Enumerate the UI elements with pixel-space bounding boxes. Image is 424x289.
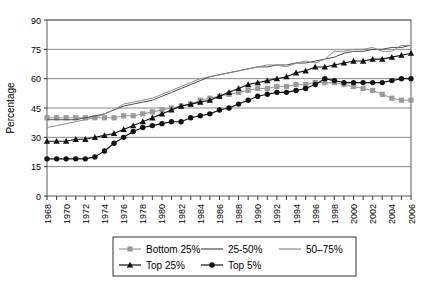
tick-label-x: 1968 bbox=[43, 204, 53, 224]
series-marker bbox=[44, 156, 49, 161]
series-marker bbox=[370, 88, 375, 93]
legend-marker bbox=[209, 262, 214, 267]
tick-label-x: 1980 bbox=[157, 204, 167, 224]
series-marker bbox=[265, 86, 270, 91]
series-marker bbox=[217, 107, 222, 112]
legend-label: Top 5% bbox=[228, 260, 261, 271]
tick-label-y: 30 bbox=[31, 133, 41, 143]
series-marker bbox=[322, 76, 327, 81]
tick-label-y: 15 bbox=[31, 162, 41, 172]
series-marker bbox=[408, 98, 413, 103]
series-marker bbox=[303, 86, 308, 91]
series-marker bbox=[332, 78, 337, 83]
series-marker bbox=[246, 88, 251, 93]
legend-marker bbox=[127, 246, 132, 251]
tick-label-x: 1986 bbox=[215, 204, 225, 224]
series-marker bbox=[121, 135, 126, 140]
series-marker bbox=[131, 113, 136, 118]
series-marker bbox=[102, 148, 107, 153]
chart-figure: 0153045607590Percentage19681970197219741… bbox=[0, 0, 424, 289]
series-marker bbox=[313, 82, 318, 87]
series-marker bbox=[207, 111, 212, 116]
series-marker bbox=[131, 129, 136, 134]
series-marker bbox=[63, 156, 68, 161]
series-marker bbox=[140, 125, 145, 130]
series-marker bbox=[274, 84, 279, 89]
tick-label-y: 60 bbox=[31, 74, 41, 84]
series-marker bbox=[351, 80, 356, 85]
tick-label-y: 0 bbox=[36, 192, 41, 202]
legend-label: 50–75% bbox=[306, 244, 343, 255]
series-marker bbox=[111, 115, 116, 120]
legend-label: Top 25% bbox=[146, 260, 185, 271]
series-marker bbox=[178, 119, 183, 124]
tick-label-x: 1990 bbox=[253, 204, 263, 224]
series-marker bbox=[102, 115, 107, 120]
series-marker bbox=[341, 80, 346, 85]
tick-label-x: 2006 bbox=[407, 204, 417, 224]
tick-label-x: 1982 bbox=[177, 204, 187, 224]
series-marker bbox=[169, 119, 174, 124]
tick-label-x: 1974 bbox=[100, 204, 110, 224]
series-marker bbox=[150, 109, 155, 114]
series-marker bbox=[284, 90, 289, 95]
series-marker bbox=[255, 86, 260, 91]
series-marker bbox=[92, 154, 97, 159]
series-marker bbox=[408, 76, 413, 81]
series-marker bbox=[198, 113, 203, 118]
tick-label-x: 1996 bbox=[311, 204, 321, 224]
series-marker bbox=[226, 105, 231, 110]
series-marker bbox=[274, 90, 279, 95]
tick-label-x: 1972 bbox=[81, 204, 91, 224]
legend-label: Bottom 25% bbox=[146, 244, 201, 255]
series-marker bbox=[361, 86, 366, 91]
series-marker bbox=[370, 80, 375, 85]
series-marker bbox=[293, 82, 298, 87]
series-marker bbox=[380, 80, 385, 85]
series-marker bbox=[360, 80, 365, 85]
series-marker bbox=[121, 113, 126, 118]
series-marker bbox=[159, 121, 164, 126]
series-marker bbox=[111, 141, 116, 146]
legend-label: 25-50% bbox=[228, 244, 263, 255]
legend: Bottom 25%25-50%50–75%Top 25%Top 5% bbox=[113, 237, 356, 276]
series-marker bbox=[236, 101, 241, 106]
tick-label-x: 1992 bbox=[272, 204, 282, 224]
tick-label-y: 75 bbox=[31, 45, 41, 55]
tick-label-x: 1970 bbox=[62, 204, 72, 224]
tick-label-x: 2000 bbox=[349, 204, 359, 224]
series-marker bbox=[265, 92, 270, 97]
tick-label-y: 45 bbox=[31, 104, 41, 114]
series-marker bbox=[188, 115, 193, 120]
tick-label-x: 1994 bbox=[292, 204, 302, 224]
series-marker bbox=[399, 98, 404, 103]
series-marker bbox=[54, 156, 59, 161]
series-marker bbox=[245, 97, 250, 102]
tick-label-x: 1984 bbox=[196, 204, 206, 224]
tick-label-x: 2002 bbox=[368, 204, 378, 224]
series-marker bbox=[380, 92, 385, 97]
series-marker bbox=[140, 111, 145, 116]
series-marker bbox=[150, 123, 155, 128]
series-marker bbox=[389, 78, 394, 83]
tick-label-x: 1998 bbox=[330, 204, 340, 224]
y-axis-title: Percentage bbox=[5, 82, 16, 134]
tick-label-x: 1976 bbox=[119, 204, 129, 224]
tick-label-x: 1988 bbox=[234, 204, 244, 224]
series-marker bbox=[284, 84, 289, 89]
tick-label-x: 1978 bbox=[138, 204, 148, 224]
series-marker bbox=[293, 88, 298, 93]
series-marker bbox=[83, 156, 88, 161]
tick-label-y: 90 bbox=[31, 16, 41, 26]
series-marker bbox=[389, 96, 394, 101]
tick-label-x: 2004 bbox=[387, 204, 397, 224]
series-marker bbox=[73, 156, 78, 161]
series-marker bbox=[255, 94, 260, 99]
series-marker bbox=[399, 76, 404, 81]
